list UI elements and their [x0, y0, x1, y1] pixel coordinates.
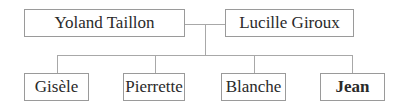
- parent-name: Yoland Taillon: [54, 13, 154, 33]
- child-name: Jean: [336, 77, 370, 97]
- child-drop-line-1: [57, 55, 58, 73]
- parent-name: Lucille Giroux: [239, 13, 340, 33]
- child-drop-line-2: [155, 55, 156, 73]
- child-name: Blanche: [226, 77, 282, 97]
- parent-node-mother: Lucille Giroux: [225, 9, 354, 37]
- parent-node-father: Yoland Taillon: [24, 9, 185, 37]
- descent-line: [205, 24, 206, 55]
- child-node: Blanche: [221, 73, 286, 101]
- child-node: Gisèle: [24, 73, 89, 101]
- child-name: Pierrette: [125, 77, 183, 97]
- child-node: Pierrette: [123, 73, 185, 101]
- child-name: Gisèle: [35, 77, 78, 97]
- child-drop-line-3: [254, 55, 255, 73]
- child-drop-line-4: [352, 55, 353, 73]
- child-node-highlighted: Jean: [320, 73, 385, 101]
- siblings-connector-line: [57, 55, 353, 56]
